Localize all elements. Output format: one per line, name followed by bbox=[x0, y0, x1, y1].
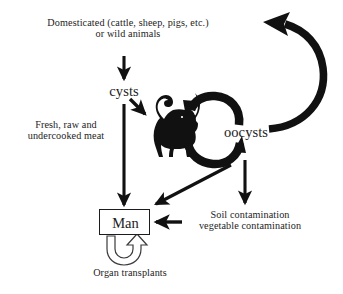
node-label-cysts: cysts bbox=[86, 83, 162, 99]
arrow-oocysts-to-animals bbox=[263, 12, 323, 129]
node-box-man: Man bbox=[99, 209, 150, 235]
node-label-oocysts: oocysts bbox=[208, 124, 284, 140]
transmission-cycle-diagram: Domesticated (cattle, sheep, pigs, etc.)… bbox=[0, 0, 343, 294]
node-label-animals: Domesticated (cattle, sheep, pigs, etc.)… bbox=[18, 17, 238, 40]
node-label-man: Man bbox=[100, 210, 151, 236]
arrow-man-self-loop-organ-transplants bbox=[107, 234, 147, 265]
diagram-arrows-layer bbox=[0, 0, 343, 294]
edge-label-meat: Fresh, raw and undercooked meat bbox=[6, 119, 126, 142]
edge-label-organ-transplants: Organ transplants bbox=[57, 267, 203, 278]
node-label-soil-contamination: Soil contamination vegetable contaminati… bbox=[183, 209, 317, 232]
arrow-cysts-to-cat bbox=[130, 99, 145, 114]
arrow-oocysts-to-man bbox=[156, 165, 231, 204]
